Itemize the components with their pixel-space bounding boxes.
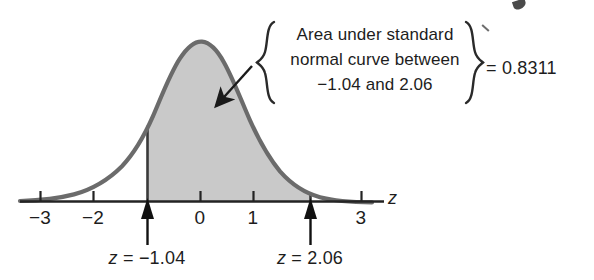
callout-brace-left: [257, 22, 274, 103]
normal-curve-figure: Area under standard normal curve between…: [0, 0, 594, 280]
tick-label-neg2: −2: [82, 207, 104, 229]
tick-label-1: 1: [248, 207, 259, 229]
marker-label-right: z = 2.06: [277, 248, 343, 269]
callout-line-3: −1.04 and 2.06: [282, 72, 468, 97]
z-axis-label: z: [388, 188, 397, 209]
tick-label-neg3: −3: [29, 207, 51, 229]
marker-label-left: z = −1.04: [109, 248, 186, 269]
callout-text-block: Area under standard normal curve between…: [282, 22, 468, 97]
marker-label-right-symbol: z: [277, 248, 286, 268]
callout-line-2: normal curve between: [282, 47, 468, 72]
marker-arrow-right: [304, 198, 317, 245]
callout-line-1: Area under standard: [282, 22, 468, 47]
tick-label-0: 0: [195, 207, 206, 229]
area-result-value: = 0.8311: [486, 58, 557, 79]
tick-label-3: 3: [356, 207, 367, 229]
callout-brace-right: [466, 22, 483, 103]
marker-label-right-value: = 2.06: [286, 248, 343, 268]
marker-label-left-value: = −1.04: [118, 248, 186, 268]
marker-label-left-symbol: z: [109, 248, 118, 268]
marker-arrow-left: [141, 198, 154, 245]
